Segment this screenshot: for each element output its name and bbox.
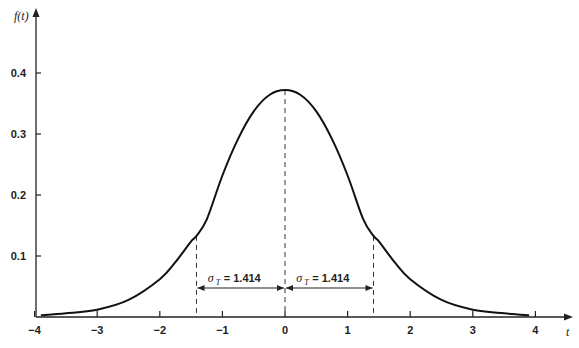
arrowhead-left-icon	[286, 285, 293, 291]
x-tick-label: −3	[91, 324, 104, 336]
y-axis-label: f(t)	[14, 9, 29, 23]
y-tick-label: 0.4	[11, 67, 27, 79]
arrowhead-left-icon	[197, 285, 204, 291]
axes	[33, 8, 574, 321]
y-axis-arrow-icon	[33, 8, 40, 17]
x-tick-label: −1	[216, 324, 229, 336]
y-tick-label: 0.3	[11, 128, 26, 140]
x-tick-label: −2	[154, 324, 167, 336]
sigma-subscript: T	[304, 278, 309, 287]
x-tick-label: 3	[470, 324, 476, 336]
x-tick-label: 0	[282, 324, 288, 336]
x-tick-label: 2	[407, 324, 413, 336]
x-axis-arrow-icon	[564, 314, 573, 321]
sigma-label: σT= 1.414	[296, 271, 350, 287]
arrowhead-right-icon	[277, 285, 284, 291]
x-tick-label: 1	[345, 324, 351, 336]
y-tick-label: 0.2	[11, 189, 26, 201]
sigma-subscript: T	[216, 278, 221, 287]
sigma-value: = 1.414	[312, 272, 350, 284]
x-tick-label: 4	[532, 324, 539, 336]
x-tick-label: −4	[28, 324, 41, 336]
arrowhead-right-icon	[366, 285, 373, 291]
sigma-symbol: σ	[208, 271, 215, 285]
sigma-value: = 1.414	[224, 272, 262, 284]
sigma-label: σT= 1.414	[208, 271, 262, 287]
ticks: −4−3−2−1012340.10.20.30.4	[11, 67, 540, 336]
chart-canvas: −4−3−2−1012340.10.20.30.4 σT= 1.414σT= 1…	[0, 0, 579, 348]
x-axis-label: t	[566, 325, 570, 339]
y-tick-label: 0.1	[11, 250, 26, 262]
sigma-symbol: σ	[296, 271, 303, 285]
